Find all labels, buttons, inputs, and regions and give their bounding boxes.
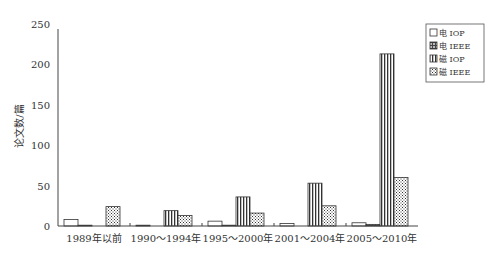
y-tick-label: 200 <box>31 59 50 70</box>
bar <box>380 54 394 226</box>
x-axis: 1989年以前1990～1994年1995～2000年2001～2004年200… <box>58 223 418 244</box>
bar <box>208 221 222 226</box>
legend-swatch <box>430 29 437 36</box>
x-tick-label: 1989年以前 <box>66 232 121 244</box>
legend-swatch <box>430 42 437 49</box>
x-tick-label: 2005～2010年 <box>347 232 418 244</box>
y-tick-label: 150 <box>31 100 50 111</box>
x-tick-label: 1990～1994年 <box>131 232 202 244</box>
y-tick-label: 0 <box>44 221 50 232</box>
x-tick-label: 2001～2004年 <box>275 232 346 244</box>
bar <box>250 213 264 226</box>
bar <box>322 206 336 226</box>
bar-chart: 050100150200250论文数/篇 1989年以前1990～1994年19… <box>0 0 488 258</box>
bar <box>64 220 78 226</box>
bar <box>236 197 250 226</box>
legend-swatch <box>430 68 437 75</box>
legend: 电 IOP电 IEEE磁 IOP磁 IEEE <box>426 24 484 82</box>
legend-swatch <box>430 55 437 62</box>
y-axis: 050100150200250论文数/篇 <box>13 19 58 232</box>
bar <box>394 178 408 226</box>
legend-label: 磁 IOP <box>439 54 465 64</box>
legend-label: 电 IEEE <box>439 41 470 51</box>
y-tick-label: 50 <box>37 181 50 192</box>
y-axis-label: 论文数/篇 <box>13 104 25 147</box>
bars <box>64 54 408 226</box>
bar <box>178 215 192 226</box>
bar <box>106 207 120 226</box>
legend-label: 磁 IEEE <box>439 67 470 77</box>
x-tick-label: 1995～2000年 <box>203 232 274 244</box>
bar <box>164 211 178 226</box>
bar <box>308 183 322 226</box>
y-tick-label: 250 <box>31 19 50 30</box>
legend-label: 电 IOP <box>439 28 465 38</box>
y-tick-label: 100 <box>31 140 50 151</box>
